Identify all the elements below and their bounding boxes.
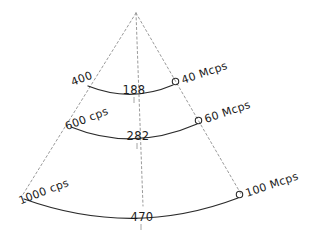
right-ray-dashed-line [136, 13, 241, 194]
arc-2-left-label: 600 cps [63, 105, 110, 133]
sector-arc-diagram: 400 188 40 Mcps 600 cps 282 60 Mcps 1000… [0, 0, 310, 245]
arc-2-center-label: 282 [127, 129, 150, 143]
arc-3-center-label: 470 [131, 210, 154, 224]
center-ray-dashed-line [136, 13, 143, 206]
arc-1-right-label: 40 Mcps [180, 59, 229, 87]
arc-2-right-label: 60 Mcps [203, 98, 252, 126]
arc-1-center-label: 188 [123, 83, 146, 97]
arc-3-left-label: 1000 cps [17, 176, 71, 207]
figure-root: 400 188 40 Mcps 600 cps 282 60 Mcps 1000… [0, 0, 310, 245]
left-ray-dashed-line [22, 13, 136, 196]
arc-3-right-label: 100 Mcps [244, 170, 300, 200]
arc-1-left-label: 400 [69, 69, 94, 89]
arc-2-endpoint-marker-icon [195, 117, 201, 123]
